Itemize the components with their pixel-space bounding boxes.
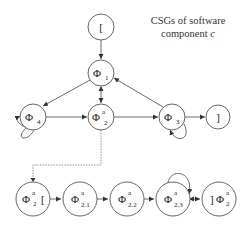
svg-text:Φ: Φ bbox=[25, 111, 33, 123]
node-phi2a-start: Φ a 2 [ bbox=[16, 182, 50, 216]
edge-phi1-phi4 bbox=[43, 80, 90, 106]
svg-text:1: 1 bbox=[105, 74, 109, 82]
node-phi2a-2: Φ a 2.2 bbox=[110, 182, 144, 216]
svg-text:2: 2 bbox=[104, 119, 108, 127]
svg-text:Φ: Φ bbox=[164, 193, 172, 205]
csg-diagram: CSGs of software component c [ Φ 1 Φ 4 Φ… bbox=[0, 0, 247, 227]
svg-text:]: ] bbox=[210, 193, 214, 205]
svg-text:Φ: Φ bbox=[93, 67, 101, 79]
diagram-title-line1: CSGs of software bbox=[151, 15, 226, 26]
svg-text:2.3: 2.3 bbox=[174, 201, 183, 209]
node-phi2a-3: Φ a 2.3 bbox=[156, 182, 190, 216]
svg-text:2.1: 2.1 bbox=[81, 201, 90, 209]
svg-text:]: ] bbox=[216, 111, 220, 123]
svg-text:3: 3 bbox=[176, 118, 180, 126]
edge-phi3-phi1 bbox=[114, 78, 163, 107]
svg-text:4: 4 bbox=[37, 118, 41, 126]
node-phi3: Φ 3 bbox=[159, 104, 185, 130]
svg-text:2.2: 2.2 bbox=[128, 201, 137, 209]
node-phi1: Φ 1 bbox=[88, 60, 114, 86]
diagram-title-line2: component c bbox=[161, 28, 215, 39]
svg-text:2: 2 bbox=[33, 200, 37, 208]
node-phi2a-1: Φ a 2.1 bbox=[63, 182, 97, 216]
svg-text:[: [ bbox=[41, 193, 45, 205]
node-phi2a: Φ a 2 bbox=[88, 104, 114, 130]
svg-text:Φ: Φ bbox=[118, 193, 126, 205]
node-start: [ bbox=[88, 14, 114, 40]
svg-text:Φ: Φ bbox=[92, 111, 100, 123]
svg-text:Φ: Φ bbox=[216, 193, 224, 205]
node-phi4: Φ 4 bbox=[20, 104, 46, 130]
node-phi2a-end: ] Φ a 2 bbox=[202, 182, 236, 216]
svg-text:2: 2 bbox=[226, 200, 230, 208]
refinement-arrowhead bbox=[31, 178, 36, 182]
svg-text:Φ: Φ bbox=[22, 193, 30, 205]
svg-text:Φ: Φ bbox=[71, 193, 79, 205]
svg-text:Φ: Φ bbox=[164, 111, 172, 123]
svg-text:[: [ bbox=[99, 21, 103, 33]
node-end: ] bbox=[206, 105, 230, 129]
refinement-link bbox=[33, 130, 101, 180]
